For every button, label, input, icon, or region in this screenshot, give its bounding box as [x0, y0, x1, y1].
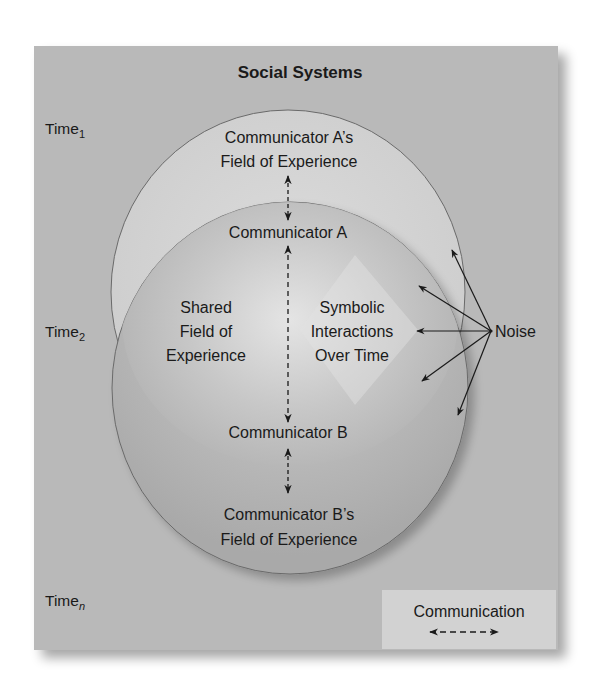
symbolic-label-line2: Interactions [311, 323, 394, 340]
symbolic-label-line3: Over Time [315, 347, 389, 364]
diagram-canvas: Social Systems Time1 Time2 Timen Communi… [0, 0, 592, 694]
communicator-b-label: Communicator B [228, 424, 347, 441]
communicator-b-field-label-line1: Communicator B’s [224, 506, 354, 523]
communicator-a-field-label-line1: Communicator A’s [225, 129, 353, 146]
shared-field-label-line2: Field of [180, 323, 233, 340]
shared-field-label-line1: Shared [180, 299, 232, 316]
noise-origin-dot [489, 329, 492, 332]
diagram-title: Social Systems [238, 63, 363, 82]
legend-label: Communication [413, 603, 524, 620]
noise-label: Noise [495, 323, 536, 340]
legend: Communication [382, 590, 556, 649]
shared-field-label-line3: Experience [166, 347, 246, 364]
communicator-b-field-label-line2: Field of Experience [221, 531, 358, 548]
symbolic-label-line1: Symbolic [320, 299, 385, 316]
communicator-a-label: Communicator A [229, 224, 348, 241]
communicator-a-field-label-line2: Field of Experience [221, 153, 358, 170]
